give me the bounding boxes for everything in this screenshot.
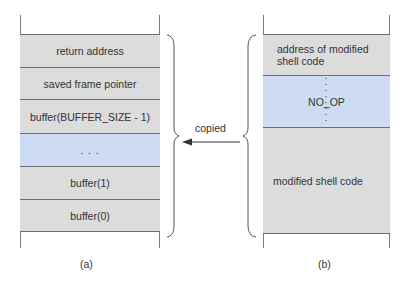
- connectors: [0, 0, 408, 281]
- brace-left-of-b: [243, 35, 256, 237]
- brace-right-of-a: [167, 35, 179, 237]
- copied-label: copied: [195, 122, 226, 134]
- arrowhead-icon: [182, 139, 192, 146]
